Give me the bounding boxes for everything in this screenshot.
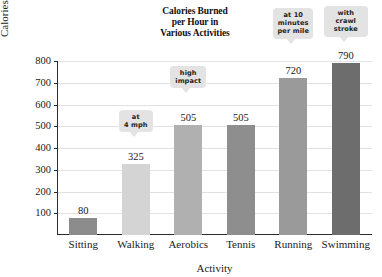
callout-line: high [174, 69, 202, 77]
bar [69, 218, 97, 235]
bar-group: 505Tennis [215, 61, 268, 235]
bar [279, 78, 307, 235]
chart-title-line-3: Various Activities [143, 28, 247, 39]
callout-line: per mile [277, 27, 309, 35]
bar-group: 720Running [267, 61, 320, 235]
x-axis-category-label: Aerobics [168, 238, 208, 250]
callout-line: stroke [328, 25, 364, 33]
callout-line: at [123, 113, 149, 121]
x-axis-category-label: Running [274, 238, 312, 250]
callout-running: at 10minutesper mile [273, 8, 313, 39]
bar-value-label: 325 [128, 151, 144, 162]
x-axis-title: Activity [57, 262, 372, 274]
y-axis-tick-label: 200 [35, 186, 51, 197]
callout-line: minutes [277, 19, 309, 27]
bar-value-label: 505 [180, 112, 196, 123]
y-axis-tick-label: 700 [35, 78, 51, 89]
callout-aerobics: highimpact [170, 66, 206, 88]
x-axis-category-label: Sitting [69, 238, 98, 250]
bar-value-label: 80 [78, 205, 89, 216]
bar [332, 63, 360, 235]
bar [227, 125, 255, 235]
y-axis-title: Calories Burned per Hour [0, 0, 10, 64]
y-axis-tick-label: 400 [35, 143, 51, 154]
bars-layer: 80Sitting325Walking505Aerobics505Tennis7… [57, 61, 372, 235]
bar-group: 790Swimming [320, 61, 373, 235]
x-axis-category-label: Walking [117, 238, 154, 250]
x-axis-category-label: Swimming [322, 238, 370, 250]
bar [122, 164, 150, 235]
bar-chart: Calories Burned per Hour in Various Acti… [0, 0, 382, 277]
callout-swimming: with crawlstroke [324, 6, 368, 37]
bar [174, 125, 202, 235]
y-axis-tick-label: 500 [35, 121, 51, 132]
callout-line: at 10 [277, 11, 309, 19]
bar-group: 80Sitting [57, 61, 110, 235]
bar-value-label: 505 [233, 112, 249, 123]
bar-group: 325Walking [110, 61, 163, 235]
chart-title: Calories Burned per Hour in Various Acti… [143, 6, 247, 40]
chart-title-line-2: per Hour in [143, 17, 247, 28]
y-axis-tick-label: 600 [35, 99, 51, 110]
callout-line: impact [174, 77, 202, 85]
bar-value-label: 720 [285, 65, 301, 76]
y-axis-tick-label: 800 [35, 56, 51, 67]
y-axis-tick-label: 100 [35, 208, 51, 219]
callout-line: 4 mph [123, 121, 149, 129]
callout-line: with crawl [328, 9, 364, 25]
chart-title-line-1: Calories Burned [143, 6, 247, 17]
x-axis-category-label: Tennis [226, 238, 255, 250]
y-axis-tick-label: 300 [35, 165, 51, 176]
bar-value-label: 790 [338, 50, 354, 61]
callout-walking: at4 mph [119, 110, 153, 132]
